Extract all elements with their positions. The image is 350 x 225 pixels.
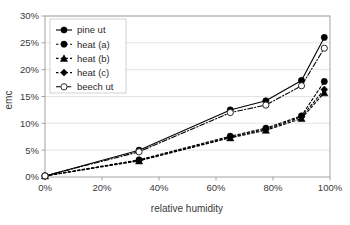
series-line [45, 93, 324, 176]
x-tick-label: 0% [38, 182, 52, 193]
x-tick-label: 80% [263, 182, 283, 193]
y-axis: 0%5%10%15%20%25%30% [20, 10, 45, 182]
y-tick-label: 10% [20, 118, 40, 129]
emc-humidity-line-chart: 0%5%10%15%20%25%30% 0%20%40%60%80%100% e… [0, 0, 350, 225]
y-tick-label: 20% [20, 64, 40, 75]
x-tick-label: 20% [92, 182, 112, 193]
y-tick-label: 25% [20, 37, 40, 48]
data-point-marker [263, 102, 269, 108]
legend-marker-icon [61, 84, 67, 90]
data-point-marker [321, 45, 327, 51]
x-tick-label: 60% [206, 182, 226, 193]
legend-item-label: beech ut [77, 81, 114, 92]
x-axis: 0%20%40%60%80%100% [38, 177, 343, 193]
x-axis-title: relative humidity [151, 203, 223, 214]
y-tick-label: 30% [20, 10, 40, 21]
series-heat-a- [42, 78, 328, 179]
y-tick-label: 0% [25, 171, 39, 182]
data-point-marker [321, 34, 327, 40]
legend-item-label: heat (a) [77, 39, 110, 50]
legend-item-label: pine ut [77, 24, 106, 35]
x-tick-label: 40% [149, 182, 169, 193]
data-point-marker [136, 149, 142, 155]
legend-marker-icon [61, 27, 67, 33]
chart-container: 0%5%10%15%20%25%30% 0%20%40%60%80%100% e… [0, 0, 350, 225]
y-tick-label: 5% [25, 145, 39, 156]
legend-item-label: heat (b) [77, 53, 110, 64]
legend-item-label: heat (c) [77, 67, 109, 78]
y-tick-label: 15% [20, 91, 40, 102]
data-point-marker [227, 110, 233, 116]
data-point-marker [321, 78, 327, 84]
data-point-marker [298, 83, 304, 89]
data-point-marker [42, 173, 48, 179]
y-axis-title: emc [3, 91, 14, 110]
x-tick-label: 100% [318, 182, 343, 193]
legend: pine utheat (a)heat (b)heat (c)beech ut [50, 19, 126, 93]
legend-marker-icon [61, 41, 67, 47]
